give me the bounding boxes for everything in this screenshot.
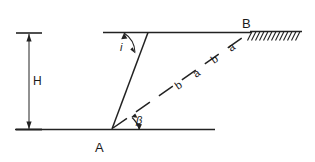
angle-i-arrow-start: [121, 33, 127, 39]
height-dim-arrow-top: [26, 34, 31, 42]
slope-face-line: [112, 33, 148, 130]
height-dim-arrow-bottom: [26, 122, 31, 130]
height-label: H: [33, 74, 42, 88]
diagram-canvas: H A B i β b a b a: [0, 0, 315, 162]
point-a-label: A: [95, 140, 104, 155]
ground-hatching: [248, 32, 303, 41]
point-b-label: B: [242, 16, 251, 31]
angle-beta-label: β: [135, 114, 143, 126]
angle-i-label: i: [120, 41, 123, 53]
angle-i-indicator: [121, 33, 135, 54]
segment-label-a-1: a: [190, 66, 203, 80]
slope-diagram-figure: H A B i β b a b a: [0, 0, 315, 162]
